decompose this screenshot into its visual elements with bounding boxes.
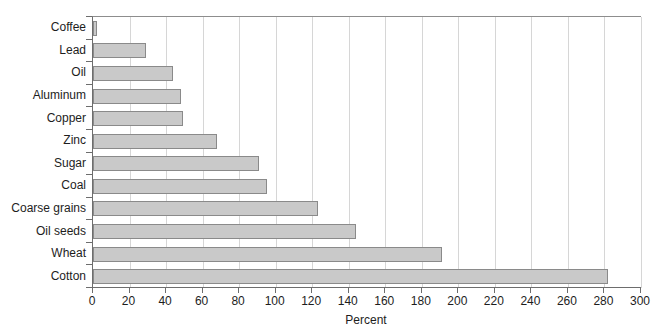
x-axis-tick <box>202 288 203 293</box>
bar-chart-figure: CoffeeLeadOilAluminumCopperZincSugarCoal… <box>0 0 661 332</box>
x-axis-tick <box>494 288 495 293</box>
plot-area <box>92 16 641 288</box>
bar[interactable] <box>93 66 173 81</box>
y-axis-labels: CoffeeLeadOilAluminumCopperZincSugarCoal… <box>0 16 92 287</box>
y-axis-tick <box>86 219 92 220</box>
y-axis-label: Coffee <box>6 21 92 33</box>
x-axis-tick <box>129 288 130 293</box>
bar[interactable] <box>93 43 146 58</box>
x-axis-tick <box>603 288 604 293</box>
y-axis-tick <box>86 84 92 85</box>
x-axis-tick-label: 140 <box>328 294 368 308</box>
y-axis-tick <box>86 61 92 62</box>
bar-row <box>93 175 641 198</box>
y-axis-label: Coal <box>6 179 92 191</box>
bar-row <box>93 265 641 288</box>
bar-row <box>93 107 641 130</box>
x-axis-tick <box>567 288 568 293</box>
bar-row <box>93 62 641 85</box>
bar-row <box>93 153 641 176</box>
x-axis-tick-label: 120 <box>291 294 331 308</box>
x-axis-tick <box>92 288 93 293</box>
x-axis-tick-label: 300 <box>620 294 660 308</box>
y-axis-label: Oil seeds <box>6 225 92 237</box>
y-axis-label: Cotton <box>6 270 92 282</box>
bar[interactable] <box>93 201 318 216</box>
bar[interactable] <box>93 89 181 104</box>
y-axis-label: Sugar <box>6 157 92 169</box>
y-axis-tick <box>86 197 92 198</box>
x-axis-tick <box>530 288 531 293</box>
y-axis-label: Wheat <box>6 247 92 259</box>
y-axis-label: Aluminum <box>6 89 92 101</box>
x-axis-tick <box>238 288 239 293</box>
x-axis-tick-label: 200 <box>437 294 477 308</box>
x-axis-tick <box>275 288 276 293</box>
bar[interactable] <box>93 134 217 149</box>
bar-row <box>93 85 641 108</box>
x-axis-tick-label: 80 <box>218 294 258 308</box>
x-axis-tick <box>348 288 349 293</box>
x-axis-tick-label: 40 <box>145 294 185 308</box>
bar-row <box>93 220 641 243</box>
x-axis-tick-label: 20 <box>109 294 149 308</box>
y-axis-tick <box>86 242 92 243</box>
bar-row <box>93 40 641 63</box>
x-axis-title: Percent <box>92 313 640 327</box>
bar[interactable] <box>93 224 356 239</box>
bar-row <box>93 17 641 40</box>
y-axis-label: Oil <box>6 66 92 78</box>
x-axis-tick-label: 280 <box>583 294 623 308</box>
bar[interactable] <box>93 179 267 194</box>
bar-row <box>93 243 641 266</box>
bar[interactable] <box>93 247 442 262</box>
chart-title <box>92 0 640 5</box>
x-axis-tick <box>384 288 385 293</box>
bar[interactable] <box>93 156 259 171</box>
x-axis-tick-label: 60 <box>182 294 222 308</box>
y-axis-tick <box>86 16 92 17</box>
x-axis-tick-label: 160 <box>364 294 404 308</box>
y-axis-label: Zinc <box>6 134 92 146</box>
x-axis-tick <box>457 288 458 293</box>
gridline <box>641 17 642 288</box>
y-axis-tick <box>86 129 92 130</box>
y-axis-tick <box>86 174 92 175</box>
y-axis-label: Coarse grains <box>6 202 92 214</box>
y-axis-label: Copper <box>6 112 92 124</box>
x-axis-tick <box>165 288 166 293</box>
bar-row <box>93 130 641 153</box>
x-axis-tick-label: 100 <box>255 294 295 308</box>
bar[interactable] <box>93 111 183 126</box>
x-axis-tick-label: 0 <box>72 294 112 308</box>
y-axis-tick <box>86 106 92 107</box>
y-axis-label: Lead <box>6 44 92 56</box>
x-axis-tick-label: 240 <box>510 294 550 308</box>
bar[interactable] <box>93 269 608 284</box>
x-axis-tick <box>421 288 422 293</box>
x-axis-tick <box>311 288 312 293</box>
bar[interactable] <box>93 21 97 36</box>
y-axis-tick <box>86 264 92 265</box>
x-axis-tick <box>640 288 641 293</box>
x-axis-line <box>92 287 641 288</box>
bar-row <box>93 198 641 221</box>
y-axis-tick <box>86 39 92 40</box>
x-axis-tick-label: 180 <box>401 294 441 308</box>
y-axis-tick <box>86 152 92 153</box>
x-axis-tick-label: 220 <box>474 294 514 308</box>
x-axis-tick-label: 260 <box>547 294 587 308</box>
